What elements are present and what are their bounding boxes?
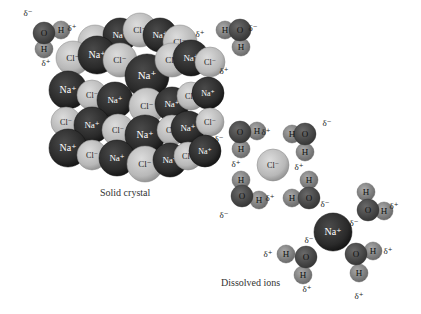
hydrogen-label: H <box>254 126 261 136</box>
delta-plus-label: δ⁺ <box>264 249 273 259</box>
ion-label: Cl⁻ <box>113 55 127 65</box>
hydrogen-label: H <box>283 249 290 259</box>
sodium-ion: Na⁺ <box>314 213 352 251</box>
delta-minus-label: δ⁻ <box>24 8 33 18</box>
water-molecule: HHOδ⁻δ⁺ <box>283 118 332 172</box>
ion-label: Cl⁻ <box>267 161 279 170</box>
hydrogen-label: H <box>238 175 245 185</box>
delta-minus-label: δ⁻ <box>249 23 258 33</box>
caption-dissolved-ions: Dissolved ions <box>221 277 280 288</box>
oxygen-label: O <box>237 127 244 137</box>
hydrogen-label: H <box>238 144 245 154</box>
oxygen-label: O <box>302 129 309 139</box>
ion-label: Cl⁻ <box>140 101 154 111</box>
delta-minus-label: δ⁻ <box>220 210 229 220</box>
hydrogen-label: H <box>222 25 229 35</box>
water-molecule: HHOδ⁺δ⁻ <box>350 183 399 228</box>
ion-label: Na⁺ <box>325 226 342 237</box>
caption-solid-crystal: Solid crystal <box>100 187 150 198</box>
oxygen-label: O <box>306 193 313 203</box>
delta-plus-label: δ⁺ <box>232 159 241 169</box>
hydrogen-label: H <box>238 42 245 52</box>
hydrogen-label: H <box>41 44 48 54</box>
ion-label: Na⁺ <box>201 89 215 98</box>
hydrogen-label: H <box>363 187 370 197</box>
chloride-ion: Cl⁻ <box>257 149 289 181</box>
delta-plus-label: δ⁺ <box>42 58 51 68</box>
delta-plus-label: δ⁺ <box>220 66 229 76</box>
oxygen-label: O <box>365 205 372 215</box>
delta-minus-label: δ⁻ <box>323 118 332 128</box>
delta-minus-label: δ⁻ <box>305 235 314 245</box>
delta-plus-label: δ⁺ <box>295 162 304 172</box>
ion-label: Na⁺ <box>198 147 212 156</box>
ion-label: Na⁺ <box>60 142 77 153</box>
hydrogen-label: H <box>302 147 309 157</box>
ion-label: Cl⁻ <box>60 118 72 127</box>
oxygen-label: O <box>41 28 48 38</box>
hydrogen-label: H <box>306 175 313 185</box>
ion-label: Na⁺ <box>137 129 154 140</box>
water-molecule: HHOδ⁻δ⁺δ⁺ <box>342 237 393 301</box>
oxygen-label: O <box>303 252 310 262</box>
ion-label: Na⁺ <box>107 95 122 105</box>
delta-plus-label: δ⁺ <box>384 246 393 256</box>
hydrogen-label: H <box>289 193 296 203</box>
hydrogen-label: H <box>58 25 65 35</box>
nacl-dissolution-diagram: Cl⁻Na⁺Cl⁻Na⁺Cl⁻Cl⁻Na⁺Cl⁻Na⁺Cl⁻Na⁺Cl⁻Na⁺C… <box>0 0 421 314</box>
delta-plus-label: δ⁺ <box>262 127 271 137</box>
ion-label: Cl⁻ <box>204 58 216 67</box>
delta-minus-label: δ⁻ <box>321 199 330 209</box>
delta-plus-label: δ⁺ <box>266 193 275 203</box>
sodium-ion: Na⁺ <box>192 77 224 109</box>
delta-plus-label: δ⁺ <box>355 291 364 301</box>
ion-label: Cl⁻ <box>112 126 124 135</box>
delta-plus-label: δ⁺ <box>390 201 399 211</box>
delta-plus-label: δ⁺ <box>303 284 312 294</box>
hydrogen-label: H <box>356 268 363 278</box>
hydrogen-label: H <box>289 129 296 139</box>
hydrogen-label: H <box>370 246 377 256</box>
delta-plus-label: δ⁺ <box>196 29 205 39</box>
ion-label: Na⁺ <box>60 84 77 95</box>
ion-label: Na⁺ <box>84 120 99 130</box>
oxygen-label: O <box>353 249 360 259</box>
chloride-ion: Cl⁻ <box>196 108 224 136</box>
ion-label: Cl⁻ <box>86 151 98 160</box>
oxygen-label: O <box>239 191 246 201</box>
ion-label: Cl⁻ <box>138 159 152 169</box>
ion-label: Cl⁻ <box>86 91 98 100</box>
ion-label: Na⁺ <box>109 153 124 163</box>
ion-label: Cl⁻ <box>204 118 216 127</box>
hydrogen-label: H <box>381 206 388 216</box>
hydrogen-label: H <box>300 270 307 280</box>
delta-minus-label: δ⁻ <box>215 134 224 144</box>
ion-label: Na⁺ <box>180 123 195 133</box>
oxygen-label: O <box>237 25 244 35</box>
hydrogen-label: H <box>256 195 263 205</box>
delta-plus-label: δ⁺ <box>68 23 77 33</box>
ion-label: Na⁺ <box>138 69 157 81</box>
water-molecule: HHOδ⁻ <box>283 171 330 209</box>
